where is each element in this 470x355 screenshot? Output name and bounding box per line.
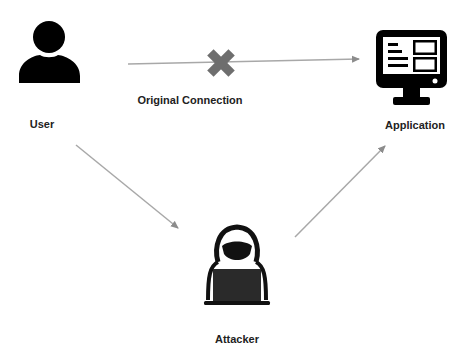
- diagram-canvas: [0, 0, 470, 355]
- original-connection-arrow: [128, 59, 359, 64]
- label-attacker: Attacker: [215, 333, 259, 345]
- user-to-attacker-arrow: [76, 145, 178, 228]
- user-icon: [19, 21, 80, 83]
- label-user: User: [30, 118, 54, 130]
- monitor-icon: [376, 30, 447, 105]
- attacker-to-application-arrow: [295, 146, 385, 237]
- label-original-connection: Original Connection: [137, 94, 242, 106]
- hacker-icon: [204, 227, 270, 305]
- label-application: Application: [385, 119, 445, 131]
